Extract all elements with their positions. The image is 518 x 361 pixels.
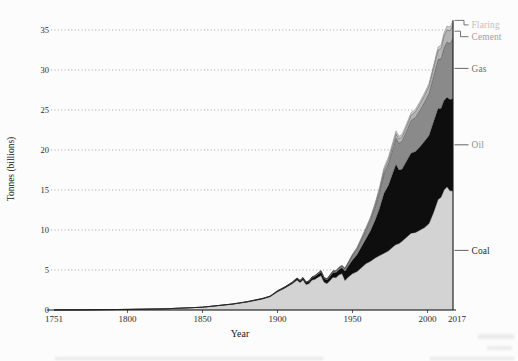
legend-label-oil: Oil xyxy=(472,140,485,150)
leader-line-flaring xyxy=(455,20,469,25)
x-tick-label-1850: 1850 xyxy=(194,314,213,324)
x-tick-label-1950: 1950 xyxy=(344,314,363,324)
x-tick-label-1800: 1800 xyxy=(119,314,138,324)
x-tick-label-2017: 2017 xyxy=(448,314,467,324)
legend-label-cement: Cement xyxy=(472,32,502,42)
figure-page: 0510152025303517511800185019001950200020… xyxy=(0,0,518,361)
x-axis-title: Year xyxy=(231,328,250,339)
x-tick-label-1751: 1751 xyxy=(45,314,63,324)
legend-annotations: CoalOilGasCementFlaring xyxy=(455,20,502,256)
legend-label-coal: Coal xyxy=(472,246,491,256)
legend-label-flaring: Flaring xyxy=(472,20,500,30)
leader-line-cement xyxy=(455,31,469,37)
y-axis-title: Tonnes (billions) xyxy=(6,137,17,202)
y-tick-label-5: 5 xyxy=(45,265,49,275)
legend-label-gas: Gas xyxy=(472,64,487,74)
y-tick-label-15: 15 xyxy=(41,185,50,195)
y-tick-label-10: 10 xyxy=(41,225,50,235)
x-tick-label-2000: 2000 xyxy=(419,314,438,324)
y-tick-label-30: 30 xyxy=(41,65,50,75)
co2-emissions-stacked-area-chart: 0510152025303517511800185019001950200020… xyxy=(0,0,518,361)
y-tick-label-25: 25 xyxy=(41,105,50,115)
y-tick-label-20: 20 xyxy=(41,145,50,155)
x-tick-label-1900: 1900 xyxy=(269,314,288,324)
stacked-area-series xyxy=(54,20,453,310)
y-tick-label-35: 35 xyxy=(41,25,50,35)
